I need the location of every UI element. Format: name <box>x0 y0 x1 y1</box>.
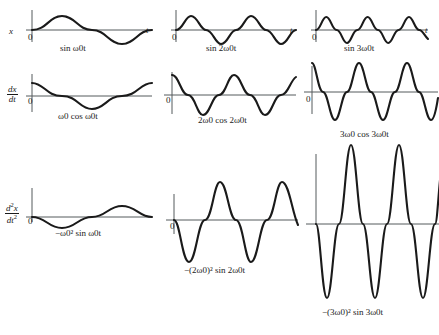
plot-r2c2 <box>150 68 296 122</box>
panel-r2c3 <box>292 58 438 124</box>
origin-label-r2c2: 0 <box>166 96 171 105</box>
t-label-r1c2: t <box>290 26 292 35</box>
t-label-r1c3: t <box>425 26 427 35</box>
curve-neg-2w0sq-sin-2w0 <box>174 182 298 262</box>
ylabel-r1: x <box>9 27 13 36</box>
origin-label-r1c1: 0 <box>28 33 33 42</box>
t-label-r1c1: t <box>146 26 148 35</box>
panel-r3c2 <box>156 190 298 268</box>
caption-r1c2: sin 2ω0t <box>206 44 236 53</box>
waveform-figure: x 0 t sin ω0t 0 t sin 2ω0t 0 t sin 3ω0t … <box>0 0 439 335</box>
fraction-denominator: dt2 <box>5 214 19 225</box>
caption-r2c3: 3ω0 cos 3ω0t <box>340 130 389 139</box>
ylabel-r3: d2x dt2 <box>5 202 19 226</box>
panel-r1c2 <box>168 8 296 46</box>
plot-r1c1 <box>22 8 152 46</box>
panel-r1c3 <box>308 8 428 46</box>
caption-r3c3: −(3ω0)² sin 3ω0t <box>322 308 383 317</box>
caption-r1c3: sin 3ω0t <box>344 44 374 53</box>
plot-r1c3 <box>308 8 428 46</box>
origin-label-r1c3: 0 <box>312 33 317 42</box>
panel-r3c3 <box>292 140 439 310</box>
plot-r3c3 <box>292 140 439 310</box>
origin-label-r2c1: 0 <box>28 97 33 106</box>
fraction-dx-dt: dx dt <box>7 85 18 105</box>
panel-r3c1 <box>22 186 152 234</box>
origin-label-r3c2: 0 <box>170 222 175 231</box>
fraction-d2x-dt2: d2x dt2 <box>5 202 19 226</box>
caption-r3c2: −(2ω0)² sin 2ω0t <box>184 266 245 275</box>
plot-r3c1 <box>22 186 152 234</box>
caption-r2c1: ω0 cos ω0t <box>58 112 98 121</box>
panel-r1c1 <box>22 8 152 46</box>
fraction-denominator: dt <box>7 95 18 104</box>
caption-r1c1: sin ω0t <box>60 44 86 53</box>
panel-r2c2 <box>150 68 296 122</box>
curve-neg-3w0sq-sin-3w0 <box>316 145 439 298</box>
plot-r2c3 <box>292 58 438 124</box>
origin-label-r3c1: 0 <box>28 217 33 226</box>
plot-r1c2 <box>168 8 296 46</box>
caption-r2c2: 2ω0 cos 2ω0t <box>198 116 247 125</box>
origin-label-r2c3: 0 <box>306 95 311 104</box>
origin-label-r1c2: 0 <box>172 33 177 42</box>
ylabel-r2: dx dt <box>7 85 18 105</box>
plot-r3c2 <box>156 190 298 268</box>
caption-r3c1: −ω0² sin ω0t <box>55 229 101 238</box>
